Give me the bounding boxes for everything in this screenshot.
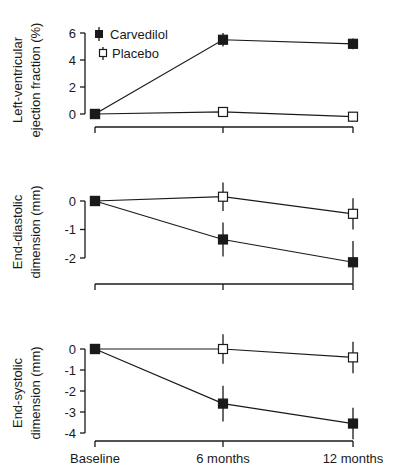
y-axis-label: End-systolic (10, 357, 25, 428)
open-square-marker-icon (219, 192, 228, 201)
filled-square-marker-icon (349, 39, 358, 48)
filled-square-marker-icon (219, 235, 228, 244)
y-tick-label: 0 (69, 342, 76, 357)
legend-placebo-label: Placebo (112, 46, 159, 61)
series-placebo (91, 107, 358, 121)
y-tick-label: -2 (64, 384, 76, 399)
filled-square-marker-icon (91, 197, 100, 206)
legend-item-carvedilol: Carvedilol (96, 27, 168, 42)
x-label-baseline: Baseline (70, 451, 120, 466)
open-square-marker-icon (349, 209, 358, 218)
series-carvedilol (91, 345, 358, 440)
y-axis-label: dimension (mm) (28, 185, 43, 278)
series-line (95, 349, 353, 424)
open-square-marker-icon (219, 345, 228, 354)
y-tick-label: 6 (69, 26, 76, 41)
y-axis-label: End-diastolic (10, 194, 25, 269)
y-axis-label: dimension (mm) (28, 346, 43, 439)
chart-legend: Carvedilol Placebo (96, 27, 168, 61)
y-tick-label: -1 (64, 363, 76, 378)
y-axis-label: Left-ventricular (10, 36, 25, 123)
y-tick-label: 0 (69, 107, 76, 122)
filled-square-marker-icon (91, 110, 100, 119)
open-square-marker-icon (349, 353, 358, 362)
x-label-12-months: 12 months (323, 451, 384, 466)
filled-square-icon (96, 31, 103, 38)
legend-item-placebo: Placebo (100, 46, 159, 61)
y-tick-label: -2 (64, 251, 76, 266)
y-tick-label: 0 (69, 194, 76, 209)
chart-panel-3: -4-3-2-10End-systolicdimension (mm) (10, 334, 358, 447)
y-tick-label: -1 (64, 222, 76, 237)
chart-canvas: 0246Left-ventricularejection fraction (%… (0, 0, 401, 471)
y-tick-label: -4 (64, 426, 76, 441)
series-line (95, 201, 353, 262)
series-placebo (91, 182, 358, 229)
y-axis-label: ejection fraction (%) (28, 23, 43, 138)
x-label-6-months: 6 months (196, 451, 250, 466)
chart-panels: 0246Left-ventricularejection fraction (%… (10, 23, 358, 447)
chart-panel-1: 0246Left-ventricularejection fraction (%… (10, 23, 358, 138)
chart-figure: 0246Left-ventricularejection fraction (%… (0, 0, 401, 471)
filled-square-marker-icon (219, 399, 228, 408)
y-tick-label: 2 (69, 80, 76, 95)
open-square-marker-icon (219, 107, 228, 116)
y-tick-label: -3 (64, 405, 76, 420)
open-square-icon (100, 50, 107, 57)
filled-square-marker-icon (349, 419, 358, 428)
filled-square-marker-icon (219, 35, 228, 44)
series-placebo (91, 334, 358, 373)
chart-panel-2: -2-10End-diastolicdimension (mm) (10, 182, 358, 290)
x-axis-labels: Baseline 6 months 12 months (70, 451, 384, 466)
y-tick-label: 4 (69, 53, 76, 68)
legend-carvedilol-label: Carvedilol (110, 27, 168, 42)
filled-square-marker-icon (91, 345, 100, 354)
filled-square-marker-icon (349, 258, 358, 267)
open-square-marker-icon (349, 112, 358, 121)
